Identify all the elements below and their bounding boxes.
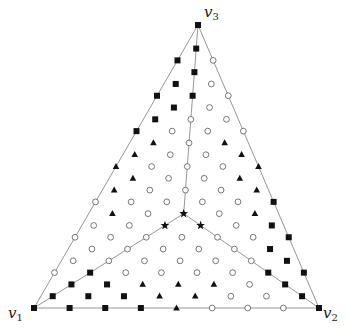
circle-marker: [194, 270, 200, 276]
circle-marker: [224, 116, 230, 122]
square-marker: [299, 293, 305, 299]
circle-marker: [245, 305, 251, 311]
circle-marker: [72, 234, 78, 240]
circle-marker: [240, 128, 246, 134]
circle-marker: [213, 258, 219, 264]
circle-marker: [183, 187, 189, 193]
circle-marker: [166, 175, 172, 181]
circle-marker: [147, 187, 153, 193]
simplex-diagram: [0, 0, 349, 330]
square-marker: [171, 105, 177, 111]
square-marker: [195, 22, 201, 28]
triangle-edges: [34, 25, 319, 308]
vertex-label-v1: v1: [8, 306, 23, 323]
circle-marker: [177, 258, 183, 264]
triangle-marker: [139, 281, 146, 287]
square-marker: [121, 293, 127, 299]
circle-marker: [230, 270, 236, 276]
circle-marker: [158, 270, 164, 276]
circle-marker: [196, 246, 202, 252]
square-marker: [50, 293, 56, 299]
circle-marker: [123, 270, 129, 276]
square-marker: [134, 128, 140, 134]
triangle-marker: [255, 163, 262, 169]
vertex-label-v2: v2: [323, 306, 338, 323]
square-marker: [67, 305, 73, 311]
vertex-label-v3: v3: [204, 5, 219, 22]
circle-marker: [184, 164, 190, 170]
circle-marker: [199, 199, 205, 205]
circle-marker: [169, 128, 175, 134]
square-marker: [271, 199, 277, 205]
circle-marker: [209, 305, 215, 311]
circle-marker: [207, 105, 213, 111]
triangle-marker: [192, 293, 199, 299]
square-marker: [175, 57, 181, 63]
center-lines: [34, 25, 319, 308]
circle-marker: [164, 199, 170, 205]
square-marker: [191, 69, 197, 75]
circle-marker: [93, 199, 99, 205]
circle-marker: [225, 93, 231, 99]
circle-marker: [149, 164, 155, 170]
square-marker: [31, 305, 37, 311]
triangle-marker: [221, 139, 228, 145]
circle-marker: [208, 81, 214, 87]
triangle-marker: [175, 281, 182, 287]
triangle-marker: [238, 151, 245, 157]
circle-marker: [179, 234, 185, 240]
circle-marker: [247, 282, 253, 288]
circle-marker: [235, 199, 241, 205]
circle-marker: [52, 270, 58, 276]
circle-marker: [89, 246, 95, 252]
triangle-marker: [109, 210, 116, 216]
circle-marker: [250, 234, 256, 240]
square-marker: [173, 81, 179, 87]
triangle-marker: [111, 186, 118, 192]
square-marker: [152, 116, 158, 122]
triangle-outline: [34, 25, 319, 308]
circle-marker: [215, 234, 221, 240]
square-marker: [265, 270, 271, 276]
triangle-marker: [150, 139, 157, 145]
circle-marker: [218, 187, 224, 193]
circle-marker: [108, 234, 114, 240]
circle-marker: [205, 128, 211, 134]
triangle-marker: [236, 175, 243, 181]
circle-marker: [220, 164, 226, 170]
circle-marker: [160, 246, 166, 252]
square-marker: [190, 93, 196, 99]
square-marker: [269, 222, 275, 228]
square-marker: [85, 293, 91, 299]
triangle-marker: [113, 163, 120, 169]
triangle-marker: [253, 186, 260, 192]
circle-marker: [143, 234, 149, 240]
square-marker: [286, 234, 292, 240]
circle-marker: [142, 258, 148, 264]
circle-marker: [233, 223, 239, 229]
circle-marker: [201, 175, 207, 181]
circle-marker: [126, 223, 132, 229]
circle-marker: [91, 223, 97, 229]
square-marker: [68, 281, 74, 287]
square-marker: [138, 305, 144, 311]
square-marker: [193, 46, 199, 52]
circle-marker: [106, 258, 112, 264]
circle-marker: [188, 116, 194, 122]
square-marker: [102, 305, 108, 311]
circle-marker: [210, 57, 216, 63]
triangle-marker: [130, 175, 137, 181]
circle-marker: [145, 211, 151, 217]
square-marker: [267, 246, 273, 252]
circle-marker: [203, 152, 209, 158]
circle-marker: [128, 199, 134, 205]
circle-marker: [125, 246, 131, 252]
circle-marker: [232, 246, 238, 252]
circle-marker: [264, 293, 270, 299]
triangle-marker: [252, 210, 259, 216]
triangle-marker: [131, 151, 138, 157]
square-marker: [104, 281, 110, 287]
square-marker: [284, 258, 290, 264]
circle-marker: [70, 258, 76, 264]
square-marker: [316, 305, 322, 311]
